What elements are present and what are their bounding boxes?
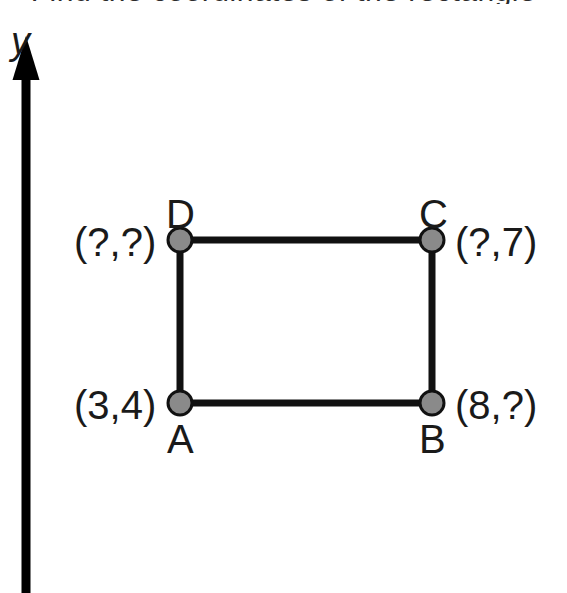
vertex-coordinate-B: (8,?) bbox=[455, 385, 537, 425]
vertex-letter-C: C bbox=[419, 194, 448, 234]
vertex-dot-B[interactable] bbox=[420, 391, 444, 415]
rectangle-coordinates-figure: Find the coordinates of the rectangle y … bbox=[0, 0, 567, 593]
vertex-coordinate-C: (?,7) bbox=[455, 222, 537, 262]
vertex-letter-B: B bbox=[419, 419, 446, 459]
y-axis-label: y bbox=[11, 22, 30, 60]
vertex-letter-D: D bbox=[166, 194, 195, 234]
vertex-dot-A[interactable] bbox=[168, 391, 192, 415]
vertex-letter-A: A bbox=[167, 419, 194, 459]
vertex-coordinate-D: (?,?) bbox=[74, 222, 156, 262]
vertex-coordinate-A: (3,4) bbox=[74, 385, 156, 425]
figure-canvas bbox=[0, 0, 567, 593]
y-axis-shaft bbox=[22, 60, 31, 593]
